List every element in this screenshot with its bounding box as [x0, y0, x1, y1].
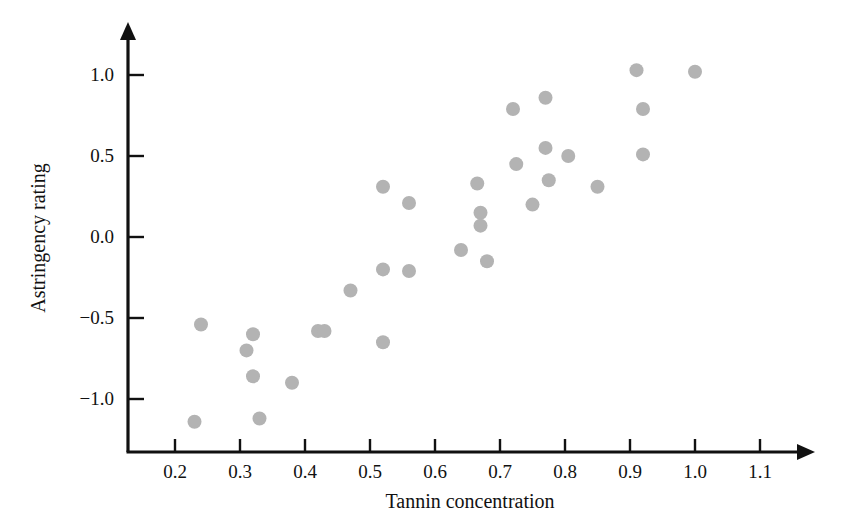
- x-tick-label: 0.4: [293, 461, 317, 482]
- data-point: [526, 198, 540, 212]
- data-point: [454, 243, 468, 257]
- x-tick-label: 1.0: [683, 461, 707, 482]
- scatter-plot-figure: 0.20.30.40.50.60.70.80.91.01.1 −1.0−0.50…: [0, 0, 845, 525]
- y-tick-label: 1.0: [90, 64, 114, 85]
- y-axis-title: Astringency rating: [27, 163, 50, 312]
- axes-group: [120, 22, 815, 460]
- y-axis-arrowhead: [120, 22, 136, 40]
- data-point: [240, 343, 254, 357]
- x-tick-label: 0.3: [228, 461, 252, 482]
- data-point: [285, 376, 299, 390]
- data-point: [542, 173, 556, 187]
- data-point: [376, 262, 390, 276]
- data-point: [506, 102, 520, 116]
- data-point: [402, 264, 416, 278]
- x-tick-label: 0.6: [423, 461, 447, 482]
- data-point: [194, 317, 208, 331]
- x-tick-label: 0.7: [488, 461, 512, 482]
- data-point: [480, 254, 494, 268]
- data-point: [376, 335, 390, 349]
- y-tick-label: −0.5: [80, 307, 114, 328]
- data-point: [636, 147, 650, 161]
- chart-canvas: 0.20.30.40.50.60.70.80.91.01.1 −1.0−0.50…: [0, 0, 845, 525]
- data-point: [688, 65, 702, 79]
- x-axis-title: Tannin concentration: [385, 490, 554, 512]
- data-points-group: [188, 63, 703, 429]
- data-point: [509, 157, 523, 171]
- data-point: [253, 411, 267, 425]
- data-point: [474, 219, 488, 233]
- data-point: [246, 327, 260, 341]
- data-point: [470, 177, 484, 191]
- data-point: [636, 102, 650, 116]
- data-point: [591, 180, 605, 194]
- x-tick-label: 0.8: [553, 461, 577, 482]
- y-axis-ticks: −1.0−0.50.00.51.0: [80, 64, 144, 409]
- x-axis-arrowhead: [797, 444, 815, 460]
- data-point: [539, 91, 553, 105]
- x-tick-label: 0.9: [618, 461, 642, 482]
- y-tick-label: 0.0: [90, 226, 114, 247]
- data-point: [344, 283, 358, 297]
- y-tick-label: 0.5: [90, 145, 114, 166]
- data-point: [630, 63, 644, 77]
- data-point: [561, 149, 575, 163]
- y-tick-label: −1.0: [80, 388, 114, 409]
- data-point: [246, 369, 260, 383]
- x-axis-ticks: 0.20.30.40.50.60.70.80.91.01.1: [163, 439, 772, 482]
- x-tick-label: 0.5: [358, 461, 382, 482]
- x-tick-label: 1.1: [748, 461, 772, 482]
- x-tick-label: 0.2: [163, 461, 187, 482]
- data-point: [474, 206, 488, 220]
- data-point: [402, 196, 416, 210]
- data-point: [539, 141, 553, 155]
- data-point: [318, 324, 332, 338]
- data-point: [188, 415, 202, 429]
- data-point: [376, 180, 390, 194]
